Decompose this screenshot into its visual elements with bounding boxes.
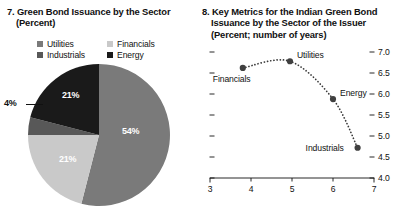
plot-data-points	[240, 58, 361, 151]
y-tick-label-5.5: 5.5	[378, 110, 390, 120]
chart-7-title-line1: 7. Green Bond Issuance by the Sector	[7, 6, 170, 17]
y-tick-label-6.5: 6.5	[378, 68, 390, 78]
chart-7-legend: Utilities Financials Industrials Energy	[37, 38, 187, 60]
point-label-industrials: Industrials	[306, 143, 344, 153]
plot-trend-curve	[243, 60, 358, 148]
data-point-financials	[240, 65, 246, 71]
legend-label-industrials: Industrials	[47, 50, 85, 60]
x-tick-label-3: 3	[204, 184, 216, 194]
panel-key-metrics-scatter: 8. Key Metrics for the Indian Green Bond…	[197, 0, 394, 216]
legend-swatch-industrials-icon	[37, 52, 43, 58]
panel-green-bond-issuance-by-sector: 7. Green Bond Issuance by the Sector (Pe…	[0, 0, 197, 216]
pie-slices	[28, 64, 170, 206]
legend-swatch-financials-icon	[107, 41, 113, 47]
point-label-energy: Energy	[340, 88, 367, 98]
data-point-utilities	[287, 58, 293, 64]
legend-label-utilities: Utilities	[47, 39, 74, 49]
legend-item-industrials: Industrials	[37, 50, 107, 60]
pie-label-financials: 21%	[59, 154, 76, 164]
data-point-industrials	[355, 145, 361, 151]
point-label-utilities: Utilities	[297, 50, 324, 60]
scatter-plot: 4.04.55.05.56.06.57.0 34567 FinancialsUt…	[197, 0, 394, 216]
pie-label-leader-line	[26, 104, 43, 105]
legend-swatch-energy-icon	[107, 52, 113, 58]
x-tick-label-7: 7	[368, 184, 380, 194]
legend-item-financials: Financials	[107, 39, 185, 49]
pie-chart: 54% 21% 21%	[26, 62, 172, 208]
x-tick-label-6: 6	[327, 184, 339, 194]
y-tick-label-6.0: 6.0	[378, 89, 390, 99]
legend-label-energy: Energy	[117, 50, 144, 60]
trend-curve-dotted	[243, 60, 358, 148]
pie-label-utilities: 54%	[122, 126, 139, 136]
pie-chart-svg	[26, 62, 172, 208]
legend-item-utilities: Utilities	[37, 39, 107, 49]
pie-label-industrials: 4%	[4, 98, 17, 108]
y-tick-label-4.5: 4.5	[378, 152, 390, 162]
figure-container: 7. Green Bond Issuance by the Sector (Pe…	[0, 0, 394, 216]
y-tick-label-7.0: 7.0	[378, 47, 390, 57]
data-point-energy	[330, 96, 336, 102]
x-tick-label-5: 5	[286, 184, 298, 194]
pie-label-energy: 21%	[62, 90, 79, 100]
point-label-financials: Financials	[213, 74, 251, 84]
legend-item-energy: Energy	[107, 50, 185, 60]
plot-axes	[210, 52, 375, 183]
y-tick-label-4.0: 4.0	[378, 173, 390, 183]
legend-swatch-utilities-icon	[37, 41, 43, 47]
legend-label-financials: Financials	[117, 39, 155, 49]
chart-7-title: 7. Green Bond Issuance by the Sector (Pe…	[7, 6, 193, 29]
chart-7-subtitle: (Percent)	[7, 17, 193, 28]
y-tick-label-5.0: 5.0	[378, 131, 390, 141]
x-tick-label-4: 4	[245, 184, 257, 194]
